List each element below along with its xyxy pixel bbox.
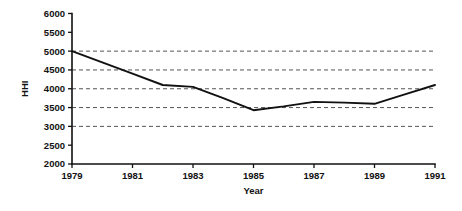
y-tick-label-2000: 2000 [44,158,65,169]
x-tick-label-1979: 1979 [61,170,82,181]
y-tick-label-5500: 5500 [44,27,65,38]
y-tick-label-5000: 5000 [44,46,65,57]
y-axis-title: HHI [19,81,30,97]
x-tick-label-1981: 1981 [122,170,144,181]
x-tick-label-1989: 1989 [364,170,385,181]
y-tick-label-6000: 6000 [44,8,65,19]
y-tick-label-3500: 3500 [44,102,65,113]
x-axis-title: Year [243,185,263,196]
y-tick-label-4000: 4000 [44,83,65,94]
x-tick-label-1987: 1987 [303,170,324,181]
x-tick-label-1991: 1991 [424,170,446,181]
y-tick-label-4500: 4500 [44,64,65,75]
y-tick-label-3000: 3000 [44,121,65,132]
x-tick-label-1985: 1985 [243,170,265,181]
line-chart: 200025003000350040004500500055006000 197… [0,0,462,211]
y-tick-label-2500: 2500 [44,140,65,151]
chart-canvas: 200025003000350040004500500055006000 197… [0,0,462,211]
x-tick-label-1983: 1983 [182,170,203,181]
